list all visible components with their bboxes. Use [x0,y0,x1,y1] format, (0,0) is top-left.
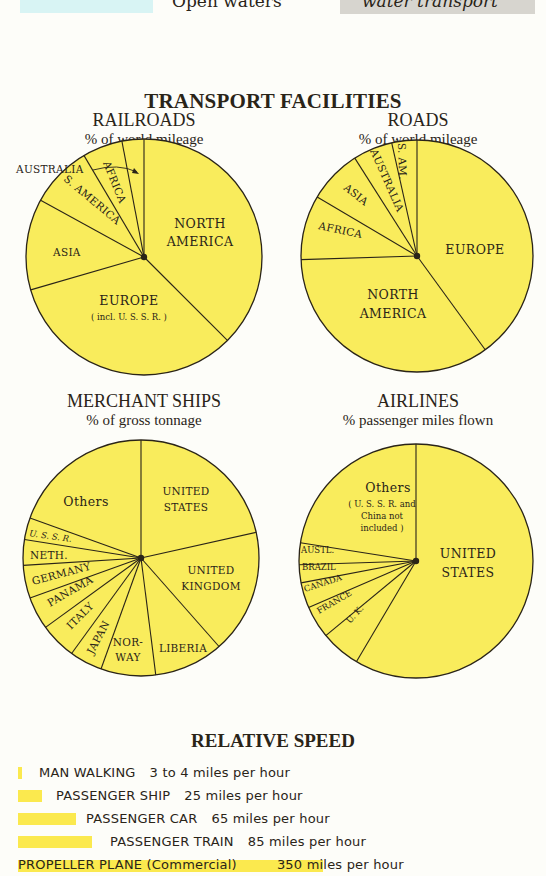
speed-label: MAN WALKING [39,765,136,780]
ships-label-neth: NETH. [30,549,68,561]
airlines-pie [299,444,533,678]
airlines-label-others: Others [365,480,411,495]
railroads-label-asia: ASIA [52,246,81,258]
railroads-label-europe: EUROPE [99,293,158,308]
pie-center-dot [413,558,419,564]
airlines-label-brazil: BRAZIL [302,562,336,572]
speed-bar [18,813,76,825]
airlines-label-others-note-3: included ) [360,523,403,533]
ships-label-uk-2: KINGDOM [181,580,240,592]
speed-bar [18,790,42,802]
airlines-label-us-1: UNITED [440,546,496,561]
speed-value: 65 miles per hour [211,811,329,826]
roads-label-s-am: S. AM. [396,143,409,180]
pie-center-dot [141,254,147,260]
roads-label-europe: EUROPE [445,242,504,257]
ships-label-uk-1: UNITED [187,564,234,576]
airlines-label-others-note-1: ( U. S. S. R. and [348,499,416,509]
roads-label-north-america-1: NORTH [367,287,419,302]
ships-label-others: Others [63,494,109,509]
ships-label-us-1: UNITED [162,485,209,497]
ships-label-norway-2: WAY [115,651,141,663]
speed-label: PROPELLER PLANE (Commercial) [18,857,237,872]
speed-unit: miles per hour [307,857,404,872]
speed-value: 3 to 4 miles per hour [150,765,290,780]
railroads-label-north-america-1: NORTH [174,216,226,231]
speed-bar [18,836,92,848]
airlines-label-austl: AUSTL. [300,545,334,555]
pie-center-dot [414,253,420,259]
ships-label-norway-1: NOR- [113,636,144,648]
roads-label-north-america-2: AMERICA [359,306,427,321]
speed-label: PASSENGER TRAIN [110,834,234,849]
speed-value: 25 miles per hour [184,788,302,803]
pie-center-dot [138,555,144,561]
speed-label: PASSENGER SHIP [56,788,170,803]
speed-value: 85 miles per hour [248,834,366,849]
ships-label-liberia: LIBERIA [159,642,207,654]
railroads-label-australia: AUSTRALIA [15,163,84,175]
ships-label-us-2: STATES [164,501,208,513]
airlines-label-us-2: STATES [442,565,495,580]
relative-speed-title: RELATIVE SPEED [0,730,546,752]
speed-label: PASSENGER CAR [86,811,197,826]
airlines-label-others-note-2: China not [361,511,404,521]
speed-value: 350 [277,857,302,872]
railroads-label-north-america-2: AMERICA [166,234,234,249]
speed-bar [18,767,22,779]
railroads-label-europe-note: ( incl. U. S. S. R. ) [91,312,167,322]
